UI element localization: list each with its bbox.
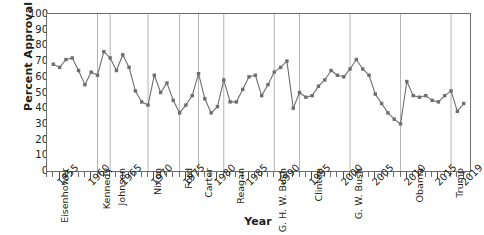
data-point-2006	[380, 102, 383, 105]
president-label-obama: Obama	[414, 168, 425, 202]
x-axis-title: Year	[0, 215, 480, 228]
x-tick-1954	[52, 172, 53, 177]
data-point-1971	[159, 91, 162, 94]
plot-area	[46, 13, 471, 172]
data-point-2002	[355, 58, 358, 61]
y-tick-label-90: 90	[22, 25, 48, 35]
y-tick-label-40: 40	[22, 103, 48, 113]
data-point-2008	[393, 117, 396, 120]
data-point-2015	[437, 100, 440, 103]
data-point-1972	[165, 81, 168, 84]
data-point-1997	[323, 78, 326, 81]
president-label-ghwbush: G. H. W. Bush	[277, 168, 288, 232]
y-tick-label-20: 20	[22, 135, 48, 145]
data-point-1963	[108, 56, 111, 59]
y-tick-label-70: 70	[22, 56, 48, 66]
data-point-1959	[83, 83, 86, 86]
data-point-1985	[247, 75, 250, 78]
president-label-clinton: Clinton	[313, 168, 324, 202]
x-tick-1999	[336, 172, 337, 177]
data-point-1982	[228, 100, 231, 103]
data-point-1958	[77, 69, 80, 72]
president-label-nixon: Nixon	[152, 168, 163, 195]
data-point-1979	[209, 111, 212, 114]
data-point-1984	[241, 88, 244, 91]
data-point-2000	[342, 75, 345, 78]
y-tick-label-10: 10	[22, 150, 48, 160]
data-point-1983	[235, 100, 238, 103]
x-tick-1959	[84, 172, 85, 177]
data-point-1967	[134, 89, 137, 92]
data-point-1986	[254, 74, 257, 77]
x-tick-1974	[179, 172, 180, 177]
president-label-johnson: Johnson	[116, 168, 127, 205]
data-point-1957	[71, 56, 74, 59]
data-point-2004	[367, 74, 370, 77]
data-point-2001	[348, 67, 351, 70]
data-point-1956	[64, 58, 67, 61]
x-tick-2008	[393, 172, 394, 177]
data-point-1996	[317, 85, 320, 88]
approval-line-series	[47, 14, 470, 171]
data-point-1976	[191, 94, 194, 97]
y-tick-label-100: 100	[22, 9, 48, 19]
x-tick-1988	[267, 172, 268, 177]
data-point-2014	[430, 99, 433, 102]
data-point-1995	[310, 94, 313, 97]
data-point-1960	[89, 70, 92, 73]
data-point-2009	[399, 122, 402, 125]
data-point-1954	[52, 63, 55, 66]
data-point-1988	[266, 83, 269, 86]
president-label-trump: Trump	[454, 168, 465, 198]
data-point-2011	[411, 94, 414, 97]
x-tick-2009	[400, 172, 401, 177]
x-tick-1968	[141, 172, 142, 177]
data-point-1968	[140, 100, 143, 103]
data-point-2017	[449, 89, 452, 92]
x-tick-2004	[368, 172, 369, 177]
data-point-1978	[203, 97, 206, 100]
data-point-2010	[405, 80, 408, 83]
president-label-kennedy: Kennedy	[101, 168, 112, 209]
data-point-2005	[374, 92, 377, 95]
x-tick-1994	[305, 172, 306, 177]
data-point-1981	[222, 78, 225, 81]
data-point-1991	[285, 59, 288, 62]
data-point-1990	[279, 66, 282, 69]
data-point-2019	[462, 102, 465, 105]
data-point-2018	[456, 110, 459, 113]
data-point-2003	[361, 67, 364, 70]
y-tick-label-60: 60	[22, 72, 48, 82]
data-point-1977	[197, 72, 200, 75]
y-tick-label-50: 50	[22, 88, 48, 98]
president-label-reagan: Reagan	[235, 168, 246, 204]
data-point-1989	[273, 70, 276, 73]
data-point-1999	[336, 74, 339, 77]
data-point-1970	[153, 74, 156, 77]
y-tick-label-30: 30	[22, 119, 48, 129]
data-point-1973	[172, 99, 175, 102]
data-point-1994	[304, 96, 307, 99]
x-tick-1973	[172, 172, 173, 177]
data-point-1992	[292, 107, 295, 110]
data-point-2013	[424, 94, 427, 97]
data-point-1987	[260, 94, 263, 97]
data-point-1974	[178, 111, 181, 114]
y-tick-label-80: 80	[22, 40, 48, 50]
data-point-1993	[298, 91, 301, 94]
x-tick-2014	[431, 172, 432, 177]
data-point-1962	[102, 50, 105, 53]
data-point-1955	[58, 66, 61, 69]
x-tick-1953	[46, 172, 47, 177]
x-tick-1998	[330, 172, 331, 177]
president-label-carter: Carter	[203, 168, 214, 198]
data-point-1975	[184, 103, 187, 106]
president-label-gwbush: G. W. Bush	[353, 168, 364, 219]
president-label-eisenhower: Eisenhower	[59, 168, 70, 223]
data-point-1964	[115, 69, 118, 72]
president-label-ford: Ford	[183, 168, 194, 189]
data-point-1966	[127, 66, 130, 69]
data-point-2012	[418, 96, 421, 99]
data-point-2007	[386, 111, 389, 114]
x-tick-1969	[147, 172, 148, 177]
